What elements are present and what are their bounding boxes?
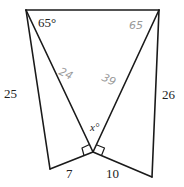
angle-x-label: x°	[89, 121, 100, 133]
right-diagonal-label: 39	[100, 71, 118, 89]
angle-label-top-left: 65°	[38, 15, 56, 30]
bottom-right-label: 10	[106, 166, 119, 181]
geometry-diagram: 65° 65 24 39 x° 25 26 7 10	[0, 0, 184, 187]
right-side-label: 26	[162, 87, 176, 102]
bottom-left-label: 7	[66, 166, 73, 181]
right-side	[152, 10, 159, 177]
left-side-label: 25	[4, 86, 17, 101]
angle-label-top-right: 65	[129, 19, 143, 32]
